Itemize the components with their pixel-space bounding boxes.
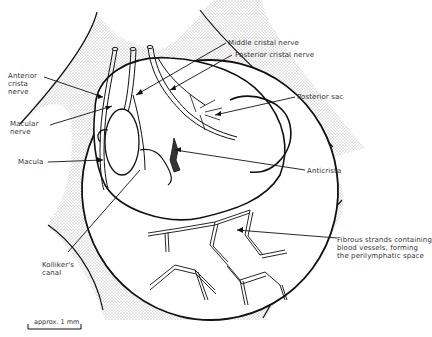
label-fibrous-strands: Fibrous strands containing blood vessels… — [337, 236, 432, 260]
label-middle-cristal-nerve: Middle cristal nerve — [228, 39, 299, 47]
label-macula: Macula — [18, 158, 43, 166]
label-anticrista: Anticrista — [307, 167, 341, 175]
label-anterior-crista-nerve: Anterior crista nerve — [8, 72, 37, 96]
label-posterior-cristal-nerve: Posterior cristal nerve — [235, 51, 314, 59]
label-kollikers-canal: Kolliker's canal — [42, 261, 74, 277]
label-macular-nerve: Macular nerve — [10, 120, 38, 136]
label-posterior-sac: Posterior sac — [297, 93, 343, 101]
macula-oval — [105, 109, 139, 175]
scale-bar-label: approx. 1 mm — [34, 318, 79, 326]
